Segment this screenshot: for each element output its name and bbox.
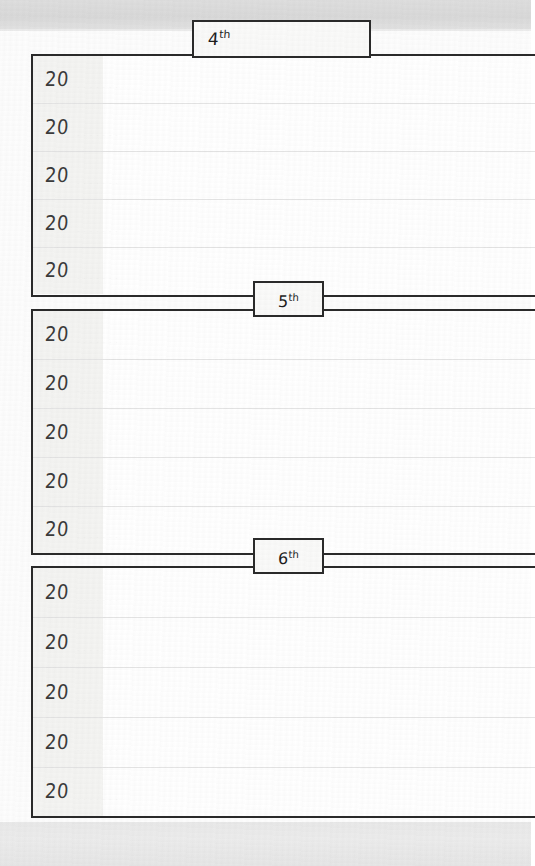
day-ordinal-suffix: th bbox=[219, 28, 231, 41]
year-blank-dotted-line[interactable] bbox=[75, 79, 119, 87]
entry-writing-area[interactable] bbox=[103, 311, 535, 359]
year-stamp: 20 bbox=[45, 214, 119, 232]
year-prefix-label: 20 bbox=[44, 781, 69, 801]
day-tab-5th: 5th bbox=[253, 281, 324, 317]
year-stamp: 20 bbox=[45, 118, 119, 136]
year-prefix-label: 20 bbox=[44, 324, 69, 344]
year-entry-row[interactable]: 20 bbox=[33, 152, 535, 200]
year-stamp: 20 bbox=[45, 261, 119, 279]
year-prefix-label: 20 bbox=[44, 373, 69, 393]
year-blank-dotted-line[interactable] bbox=[75, 175, 119, 183]
year-entry-row[interactable]: 20 bbox=[33, 458, 535, 507]
entry-writing-area[interactable] bbox=[103, 56, 535, 103]
year-prefix-label: 20 bbox=[44, 732, 69, 752]
year-prefix-label: 20 bbox=[44, 471, 69, 491]
year-prefix-label: 20 bbox=[44, 69, 69, 89]
entry-writing-area[interactable] bbox=[103, 104, 535, 151]
year-stamp: 20 bbox=[45, 374, 119, 392]
year-entry-row[interactable]: 20 bbox=[33, 618, 535, 668]
year-stamp: 20 bbox=[45, 325, 119, 343]
year-prefix-label: 20 bbox=[44, 165, 69, 185]
year-stamp: 20 bbox=[45, 683, 119, 701]
year-stamp: 20 bbox=[45, 520, 119, 538]
year-entry-row[interactable]: 20 bbox=[33, 718, 535, 768]
day-tab-4th: 4th bbox=[192, 20, 371, 58]
year-stamp: 20 bbox=[45, 583, 119, 601]
day-section-5th: 20 20 20 20 bbox=[31, 309, 535, 555]
year-prefix-label: 20 bbox=[44, 519, 69, 539]
day-section-6th: 20 20 20 20 bbox=[31, 566, 535, 818]
year-blank-dotted-line[interactable] bbox=[75, 127, 119, 135]
year-stamp: 20 bbox=[45, 472, 119, 490]
day-tab-6th: 6th bbox=[253, 538, 324, 574]
day-tab-label: 6th bbox=[255, 549, 323, 567]
entry-writing-area[interactable] bbox=[103, 718, 535, 767]
entry-writing-area[interactable] bbox=[103, 668, 535, 717]
year-blank-dotted-line[interactable] bbox=[75, 791, 119, 799]
year-blank-dotted-line[interactable] bbox=[75, 742, 119, 750]
year-blank-dotted-line[interactable] bbox=[75, 481, 119, 489]
year-stamp: 20 bbox=[45, 423, 119, 441]
year-stamp: 20 bbox=[45, 166, 119, 184]
year-blank-dotted-line[interactable] bbox=[75, 529, 119, 537]
year-entry-row[interactable]: 20 bbox=[33, 568, 535, 618]
year-entry-row[interactable]: 20 bbox=[33, 360, 535, 409]
entry-writing-area[interactable] bbox=[103, 409, 535, 457]
year-blank-dotted-line[interactable] bbox=[75, 383, 119, 391]
year-prefix-label: 20 bbox=[44, 422, 69, 442]
entry-writing-area[interactable] bbox=[103, 360, 535, 408]
year-prefix-label: 20 bbox=[44, 582, 69, 602]
year-blank-dotted-line[interactable] bbox=[75, 692, 119, 700]
entry-writing-area[interactable] bbox=[103, 152, 535, 199]
day-ordinal-suffix: th bbox=[288, 548, 300, 560]
year-stamp: 20 bbox=[45, 733, 119, 751]
year-entry-row[interactable]: 20 bbox=[33, 200, 535, 248]
scan-edge-band-bottom bbox=[0, 822, 531, 866]
year-blank-dotted-line[interactable] bbox=[75, 432, 119, 440]
entry-writing-area[interactable] bbox=[103, 568, 535, 617]
year-prefix-label: 20 bbox=[44, 213, 69, 233]
year-blank-dotted-line[interactable] bbox=[75, 270, 119, 278]
year-entry-row[interactable]: 20 bbox=[33, 104, 535, 152]
entry-writing-area[interactable] bbox=[103, 768, 535, 816]
day-tab-label: 4th bbox=[207, 30, 231, 48]
day-tab-label: 5th bbox=[255, 292, 323, 310]
year-blank-dotted-line[interactable] bbox=[75, 334, 119, 342]
year-prefix-label: 20 bbox=[44, 260, 69, 280]
day-title-dotted-line[interactable] bbox=[246, 40, 359, 48]
year-blank-dotted-line[interactable] bbox=[75, 642, 119, 650]
entry-writing-area[interactable] bbox=[103, 200, 535, 247]
year-prefix-label: 20 bbox=[44, 117, 69, 137]
year-stamp: 20 bbox=[45, 782, 119, 800]
day-section-4th: 20 20 20 20 bbox=[31, 54, 535, 297]
day-ordinal-suffix: th bbox=[288, 291, 300, 303]
year-stamp: 20 bbox=[45, 70, 119, 88]
entry-writing-area[interactable] bbox=[103, 458, 535, 506]
year-stamp: 20 bbox=[45, 633, 119, 651]
year-entry-row[interactable]: 20 bbox=[33, 56, 535, 104]
year-prefix-label: 20 bbox=[44, 682, 69, 702]
entry-writing-area[interactable] bbox=[103, 618, 535, 667]
year-blank-dotted-line[interactable] bbox=[75, 592, 119, 600]
year-entry-row[interactable]: 20 bbox=[33, 768, 535, 816]
day-number: 4 bbox=[207, 29, 219, 49]
year-entry-row[interactable]: 20 bbox=[33, 409, 535, 458]
year-entry-row[interactable]: 20 bbox=[33, 311, 535, 360]
year-entry-row[interactable]: 20 bbox=[33, 668, 535, 718]
year-blank-dotted-line[interactable] bbox=[75, 223, 119, 231]
year-prefix-label: 20 bbox=[44, 632, 69, 652]
